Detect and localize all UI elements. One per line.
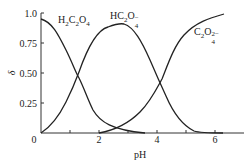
x-tick-4: 4	[155, 134, 160, 145]
label-h2c2o4: H2C2O4	[58, 14, 90, 28]
series-h2c2o4	[41, 19, 145, 133]
x-tick-2: 2	[97, 134, 102, 145]
distribution-chart: 1.0 0.75 0.50 0.25 0 2 4 6 pH δ	[0, 0, 249, 165]
y-axis-label: δ	[6, 70, 17, 75]
x-axis-label: pH	[134, 149, 146, 160]
y-tick-0.75: 0.75	[20, 38, 38, 49]
label-c2o4: C2O2−4	[194, 26, 223, 40]
y-tick-1.0: 1.0	[25, 8, 38, 19]
series-hc2o4	[41, 24, 223, 133]
y-tick-0.50: 0.50	[20, 68, 38, 79]
y-tick-0.25: 0.25	[20, 98, 38, 109]
label-hc2o4: HC2O−4	[110, 10, 141, 24]
x-tick-6: 6	[213, 134, 218, 145]
x-tick-0: 0	[32, 134, 37, 145]
